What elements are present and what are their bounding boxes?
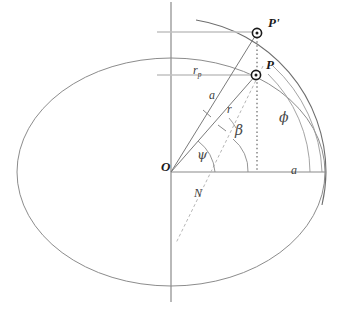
label-angle-beta: β (235, 123, 243, 137)
label-normal-n: N (194, 187, 202, 199)
tick-mark-r (218, 125, 226, 131)
label-point-p-prime: P' (268, 16, 280, 29)
tick-mark-a (203, 110, 211, 117)
normal-line-n (176, 66, 263, 243)
label-r-p: rp (193, 64, 201, 78)
label-point-p: P (266, 58, 274, 71)
segment-o-pprime (171, 33, 257, 172)
label-semi-major-left: a (209, 89, 215, 101)
angle-arc-phi-inner (268, 74, 310, 172)
label-angle-phi: ϕ (279, 110, 289, 124)
label-origin: O (161, 160, 170, 173)
label-r-p-sub: p (198, 70, 202, 79)
diagram-canvas: P' P O rp a r a N ψ β ϕ (0, 0, 339, 317)
label-radius-r: r (227, 103, 232, 115)
point-dot-p-prime (256, 32, 259, 35)
circle-arc (196, 20, 326, 205)
label-angle-psi: ψ (197, 148, 207, 161)
angle-arc-beta (233, 139, 248, 172)
point-dot-p (255, 74, 258, 77)
label-semi-major-axis: a (291, 164, 297, 176)
